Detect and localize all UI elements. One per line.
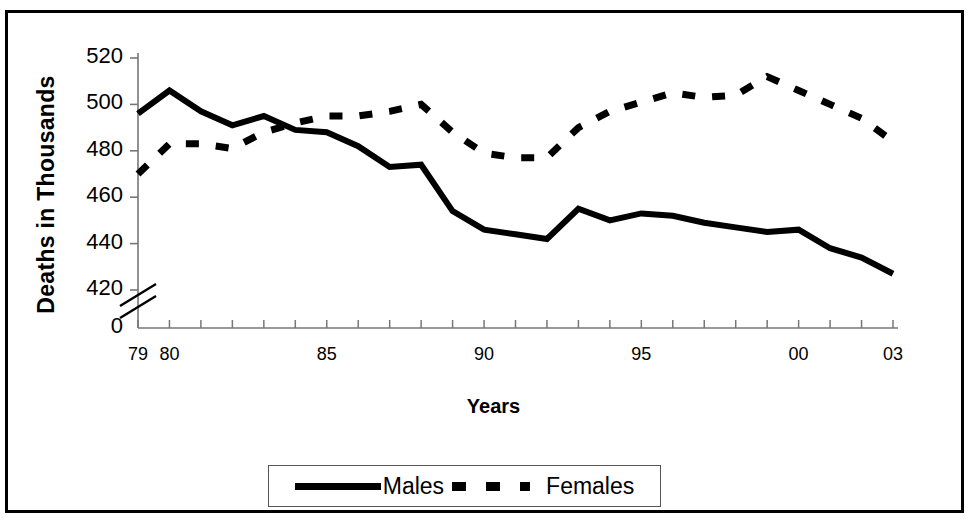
chart-area: Deaths in Thousands Years 52050048046044…	[8, 13, 961, 510]
legend-swatch-dashed-line	[452, 482, 544, 491]
legend: Males Females	[268, 465, 661, 507]
legend-label-males: Males	[383, 473, 444, 500]
figure-border: Deaths in Thousands Years 52050048046044…	[5, 10, 964, 513]
legend-entry-males: Males	[295, 473, 444, 500]
series-line-males	[138, 90, 893, 273]
line-plot	[8, 13, 961, 510]
series-line-females	[138, 77, 893, 174]
legend-swatch-solid-line	[295, 483, 381, 490]
legend-entry-females: Females	[444, 473, 634, 500]
legend-label-females: Females	[546, 473, 634, 500]
